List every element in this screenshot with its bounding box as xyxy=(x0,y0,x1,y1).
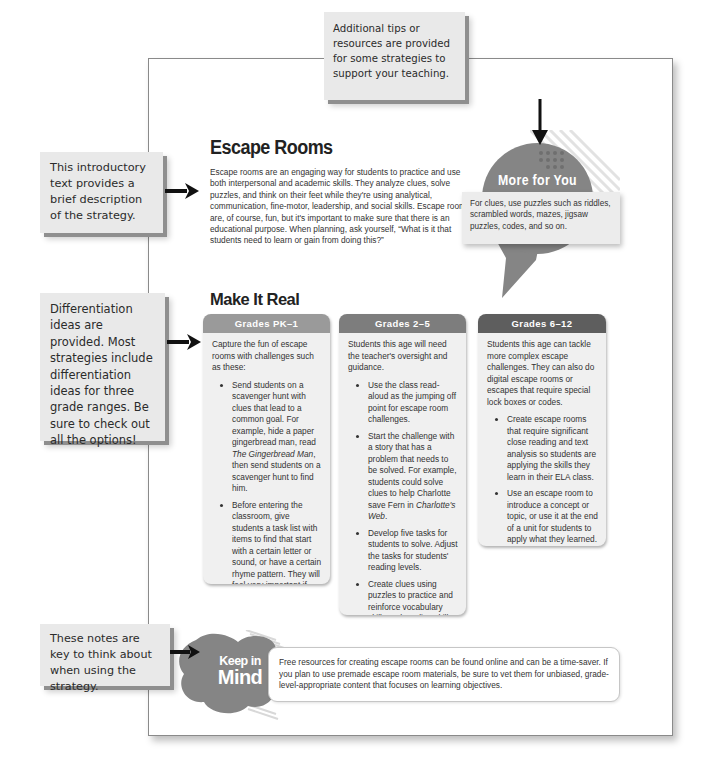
grade-card-pk-1: Grades PK–1 Capture the fun of escape ro… xyxy=(203,314,330,584)
more-for-you-title: More for You xyxy=(490,172,584,188)
grade-card-intro: Students this age will need the teacher'… xyxy=(348,339,458,374)
keep-in-mind-text: Free resources for creating escape rooms… xyxy=(268,647,620,702)
list-item: Use the class read-aloud as the jumping … xyxy=(368,380,458,426)
grade-card-intro: Capture the fun of escape rooms with cha… xyxy=(212,339,322,374)
grade-card-intro: Students this age can tackle more comple… xyxy=(487,339,598,408)
arrow-right-icon xyxy=(167,334,201,350)
grade-card-6-12: Grades 6–12 Students this age can tackle… xyxy=(478,314,606,546)
list-item: Use an escape room to introduce a concep… xyxy=(507,488,598,546)
callout-keep-in-mind: These notes are key to think about when … xyxy=(40,624,170,686)
arrow-right-icon xyxy=(165,183,199,199)
grade-card-header: Grades 6–12 xyxy=(478,314,606,333)
arrow-right-icon xyxy=(170,645,200,659)
list-item: Create clues using puzzles to practice a… xyxy=(368,579,458,616)
strategy-description: Escape rooms are an engaging way for stu… xyxy=(210,167,478,247)
arrow-down-icon xyxy=(532,99,548,145)
more-for-you-text: For clues, use puzzles such as riddles, … xyxy=(462,192,620,244)
grade-card-header: Grades 2–5 xyxy=(339,314,466,333)
grade-card-2-5: Grades 2–5 Students this age will need t… xyxy=(339,314,466,615)
list-item: Send students on a scavenger hunt with c… xyxy=(232,380,322,495)
callout-differentiation: Differentiation ideas are provided. Most… xyxy=(40,293,165,441)
make-it-real-title: Make It Real xyxy=(210,290,299,309)
list-item: Develop five tasks for students to solve… xyxy=(368,528,458,574)
list-item: Before entering the classroom, give stud… xyxy=(232,500,322,585)
list-item: Create escape rooms that require signifi… xyxy=(507,414,598,483)
strategy-title: Escape Rooms xyxy=(210,136,333,159)
dots-decoration-icon xyxy=(538,150,568,174)
callout-resources: Additional tips or resources are provide… xyxy=(324,12,465,100)
callout-intro: This introductory text provides a brief … xyxy=(40,152,163,233)
keep-in-mind-title: Keep in Mind xyxy=(210,656,270,687)
grade-card-header: Grades PK–1 xyxy=(203,314,330,333)
list-item: Start the challenge with a story that ha… xyxy=(368,431,458,523)
